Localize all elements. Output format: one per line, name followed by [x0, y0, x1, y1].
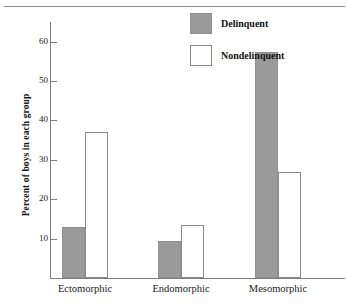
bar-chart-figure: Percent of boys in each group 1020304050… [0, 0, 347, 307]
bar-delinquent-ectomorphic[interactable] [62, 227, 85, 278]
legend-swatch-nondelinquent-icon [190, 45, 212, 66]
y-axis-tick-label: 60 [8, 37, 48, 46]
legend-swatch-delinquent-icon [190, 13, 212, 34]
y-axis-tick-label: 50 [8, 76, 48, 85]
legend-item-delinquent[interactable]: Delinquent [190, 12, 268, 34]
legend-label-nondelinquent: Nondelinquent [221, 50, 284, 61]
x-axis-label-endomorphic: Endomorphic [131, 283, 231, 294]
y-axis-tick-label: 20 [8, 194, 48, 203]
x-axis-label-ectomorphic: Ectomorphic [35, 283, 135, 294]
y-axis-tick-label: 40 [8, 115, 48, 124]
top-divider-rule [4, 6, 345, 7]
bar-nondelinquent-endomorphic[interactable] [181, 225, 204, 278]
bar-delinquent-endomorphic[interactable] [158, 241, 181, 278]
legend-item-nondelinquent[interactable]: Nondelinquent [190, 44, 284, 66]
legend-label-delinquent: Delinquent [221, 18, 268, 29]
bar-nondelinquent-mesomorphic[interactable] [278, 172, 301, 278]
y-axis-tick-label: 30 [8, 155, 48, 164]
bar-nondelinquent-ectomorphic[interactable] [85, 132, 108, 278]
x-axis-label-mesomorphic: Mesomorphic [228, 283, 328, 294]
y-axis-tick-label: 10 [8, 234, 48, 243]
bar-delinquent-mesomorphic[interactable] [255, 52, 278, 278]
x-axis-baseline [50, 278, 345, 279]
